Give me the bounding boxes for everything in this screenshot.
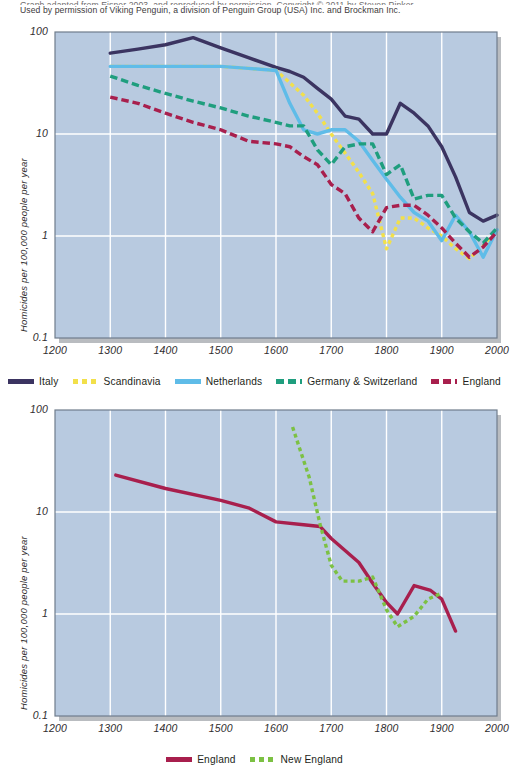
legend-swatch-scandinavia xyxy=(73,379,99,384)
legend-label: Scandinavia xyxy=(104,376,161,387)
legend-item: New England xyxy=(250,754,343,765)
legend-item: Italy xyxy=(8,376,58,387)
homicide-chart-europe: Homicides per 100,000 people per year 10… xyxy=(0,22,523,382)
homicide-chart-england: Homicides per 100,000 people per year 10… xyxy=(0,398,523,779)
chart-1-plot xyxy=(0,22,523,350)
legend-swatch-netherlands xyxy=(175,379,201,384)
legend-label: England xyxy=(462,376,500,387)
chart-1-legend: ItalyScandinaviaNetherlandsGermany & Swi… xyxy=(0,376,523,387)
legend-item: Netherlands xyxy=(175,376,263,387)
legend-label: England xyxy=(197,754,235,765)
legend-label: Italy xyxy=(39,376,58,387)
legend-swatch-germany-switzerland xyxy=(276,379,302,384)
legend-item: England xyxy=(431,376,500,387)
legend-item: England xyxy=(166,754,235,765)
legend-swatch-england xyxy=(431,379,457,384)
legend-swatch-italy xyxy=(8,379,34,384)
legend-label: Germany & Switzerland xyxy=(307,376,417,387)
legend-label: New England xyxy=(281,754,343,765)
chart-2-legend: EnglandNew England xyxy=(0,754,523,765)
figure-caption: Graph adapted from Eisner 2003, and repr… xyxy=(0,0,523,16)
legend-label: Netherlands xyxy=(206,376,263,387)
legend-item: Scandinavia xyxy=(73,376,161,387)
legend-swatch-england xyxy=(166,757,192,762)
legend-swatch-new-england xyxy=(250,757,276,762)
legend-item: Germany & Switzerland xyxy=(276,376,417,387)
caption-line-permission: Used by permission of Viking Penguin, a … xyxy=(0,5,523,16)
chart-2-plot xyxy=(0,398,523,728)
